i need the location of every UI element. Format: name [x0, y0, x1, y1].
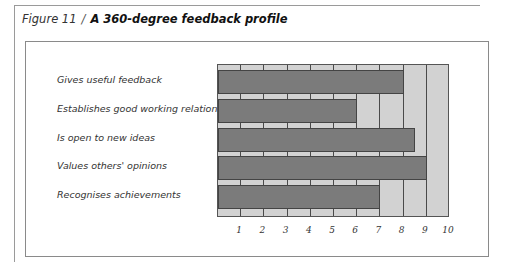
page-border-top: [14, 5, 480, 6]
category-label: Values others' opinions: [57, 160, 167, 171]
x-tick-label: 1: [229, 225, 249, 235]
figure-name: A 360-degree feedback profile: [90, 12, 287, 26]
x-tick-label: 10: [438, 225, 458, 235]
plot-area: [217, 64, 449, 217]
x-tick-label: 4: [299, 225, 319, 235]
category-label: Gives useful feedback: [57, 74, 162, 85]
bar: [218, 99, 357, 123]
figure-number: Figure 11: [22, 12, 77, 26]
gridline: [426, 65, 427, 216]
category-label: Establishes good working relationships: [57, 103, 242, 114]
x-tick-label: 2: [252, 225, 272, 235]
page-border-left: [14, 5, 15, 262]
bar: [218, 70, 404, 94]
x-tick-label: 8: [392, 225, 412, 235]
bar: [218, 185, 380, 209]
x-tick-label: 9: [415, 225, 435, 235]
x-tick-label: 7: [368, 225, 388, 235]
bar: [218, 128, 415, 152]
figure-title: Figure 11/A 360-degree feedback profile: [22, 12, 288, 26]
x-tick-label: 5: [322, 225, 342, 235]
category-label: Is open to new ideas: [57, 132, 155, 143]
figure-separator: /: [82, 12, 86, 26]
x-tick-label: 3: [276, 225, 296, 235]
x-tick-label: 6: [345, 225, 365, 235]
bar: [218, 156, 427, 180]
category-label: Recognises achievements: [57, 189, 181, 200]
